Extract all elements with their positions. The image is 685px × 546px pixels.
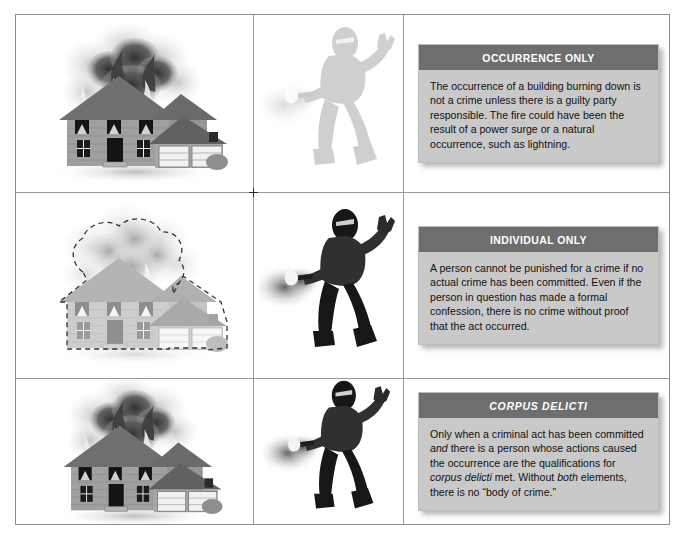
- callout-wrap-row2: INDIVIDUAL ONLY A person cannot be punis…: [418, 226, 659, 346]
- house-illustration-row2: [31, 202, 239, 370]
- arsonist-figure: [284, 27, 394, 165]
- cell-callout-corpus-delicti: CORPUS DELICTI Only when a criminal act …: [404, 379, 669, 524]
- cell-person-occurrence-only: [254, 15, 404, 193]
- callout-body-individual-only: A person cannot be punished for a crime …: [419, 252, 658, 345]
- callout-occurrence-only: OCCURRENCE ONLY The occurrence of a buil…: [418, 44, 659, 164]
- cell-house-individual-only: [16, 193, 254, 379]
- callout-wrap-row1: OCCURRENCE ONLY The occurrence of a buil…: [418, 44, 659, 164]
- callout-title-individual-only: INDIVIDUAL ONLY: [419, 227, 658, 252]
- figure-grid: OCCURRENCE ONLY The occurrence of a buil…: [16, 15, 669, 524]
- cell-person-corpus-delicti: [254, 379, 404, 524]
- callout-wrap-row3: CORPUS DELICTI Only when a criminal act …: [418, 392, 659, 512]
- arsonist-figure: [284, 209, 394, 347]
- cell-house-corpus-delicti: [16, 379, 254, 524]
- cell-callout-occurrence-only: OCCURRENCE ONLY The occurrence of a buil…: [404, 15, 669, 193]
- house-illustration-row3: [31, 379, 239, 524]
- callout-corpus-delicti: CORPUS DELICTI Only when a criminal act …: [418, 392, 659, 512]
- callout-title-corpus-delicti: CORPUS DELICTI: [419, 393, 658, 418]
- arsonist-illustration-row3: [259, 379, 399, 524]
- cell-callout-individual-only: INDIVIDUAL ONLY A person cannot be punis…: [404, 193, 669, 379]
- callout-title-occurrence-only: OCCURRENCE ONLY: [419, 45, 658, 70]
- arsonist-figure: [288, 380, 390, 508]
- callout-individual-only: INDIVIDUAL ONLY A person cannot be punis…: [418, 226, 659, 346]
- house-illustration-row1: [31, 20, 239, 188]
- arsonist-illustration-row1: [259, 23, 399, 185]
- figure-frame: OCCURRENCE ONLY The occurrence of a buil…: [15, 14, 670, 525]
- cell-person-individual-only: [254, 193, 404, 379]
- callout-body-occurrence-only: The occurrence of a building burning dow…: [419, 70, 658, 163]
- callout-body-corpus-delicti: Only when a criminal act has been commit…: [419, 418, 658, 511]
- arsonist-illustration-row2: [259, 205, 399, 367]
- cell-house-occurrence-only: [16, 15, 254, 193]
